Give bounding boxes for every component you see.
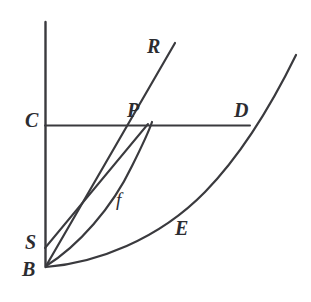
figure-root: C S B P R D E f xyxy=(0,0,311,302)
line-S-to-P xyxy=(45,124,148,248)
label-point-C: C xyxy=(25,110,38,130)
label-point-D: D xyxy=(234,100,248,120)
label-curve-f: f xyxy=(116,190,121,209)
curve-f xyxy=(46,122,152,266)
label-point-B: B xyxy=(22,259,35,279)
label-curve-R: R xyxy=(147,36,160,56)
label-point-S: S xyxy=(25,232,36,252)
label-point-P: P xyxy=(127,100,139,120)
line-B-to-R xyxy=(46,43,175,266)
label-curve-E: E xyxy=(175,218,188,238)
